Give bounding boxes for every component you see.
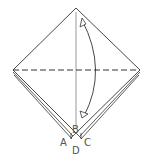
label-c: C [84, 138, 91, 148]
origami-diagram [0, 0, 148, 165]
label-d: D [72, 146, 80, 156]
label-b: B [72, 125, 79, 135]
label-a: A [60, 138, 67, 148]
